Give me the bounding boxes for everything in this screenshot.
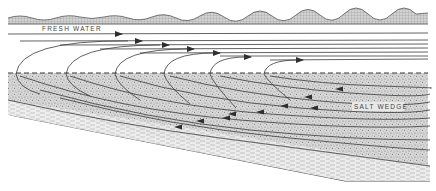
salt-wedge-diagram: FRESH WATER SALT WEDGE: [0, 0, 436, 191]
fresh-water-label: FRESH WATER: [42, 25, 102, 32]
water-surface: [8, 8, 428, 24]
salt-wedge-label: SALT WEDGE: [354, 103, 408, 110]
fresh-water-flow-lines: [8, 33, 428, 60]
